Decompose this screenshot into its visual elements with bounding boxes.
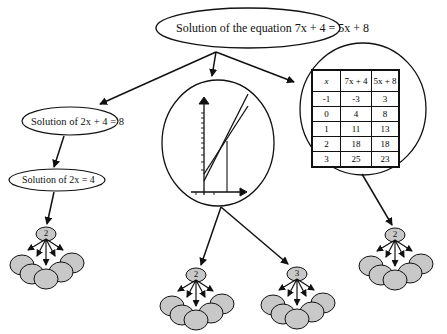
table-cell: 18 <box>341 137 372 152</box>
edge-table-cluster <box>362 174 392 225</box>
edge-root-graph <box>212 52 216 76</box>
table-row: 3 25 23 <box>312 152 399 168</box>
edge-root-table <box>216 52 294 82</box>
table-header: 5x + 8 <box>372 70 400 92</box>
table-cell: 8 <box>372 107 400 122</box>
table-cell: 13 <box>372 122 400 137</box>
table-cell: 4 <box>341 107 372 122</box>
table-cell: -1 <box>312 92 341 107</box>
table-cell: 25 <box>341 152 372 168</box>
table-header: x <box>312 70 341 92</box>
edge-step1-step2 <box>54 136 64 167</box>
cluster-badge-algebraic: 2 <box>36 228 56 238</box>
cluster-badge-graph-right: 3 <box>287 268 307 278</box>
table-row: 0 4 8 <box>312 107 399 122</box>
table-cell: 3 <box>312 152 341 168</box>
table-row: -1 -3 3 <box>312 92 399 107</box>
values-table: x 7x + 4 5x + 8 -1 -3 3 0 4 8 1 11 13 2 … <box>311 69 400 168</box>
edge-step2-cluster <box>47 192 54 224</box>
table-cell: 0 <box>312 107 341 122</box>
step2-label: Solution of 2x = 4 <box>22 174 95 185</box>
table-cell: -3 <box>341 92 372 107</box>
graph-node <box>162 80 274 206</box>
table-cell: 11 <box>341 122 372 137</box>
table-cell: 23 <box>372 152 400 168</box>
table-row: 2 18 18 <box>312 137 399 152</box>
table-cell: 3 <box>372 92 400 107</box>
cluster-badge-table: 2 <box>385 229 405 239</box>
table-cell: 1 <box>312 122 341 137</box>
edge-graph-cluster-2 <box>201 207 221 265</box>
step1-label: Solution of 2x + 4 = 8 <box>31 116 124 127</box>
table-cell: 18 <box>372 137 400 152</box>
cluster-badge-graph-left: 2 <box>186 269 206 279</box>
table-header: 7x + 4 <box>341 70 372 92</box>
root-label: Solution of the equation 7x + 4 = 5x + 8 <box>176 21 369 36</box>
edge-graph-cluster-3 <box>221 207 288 264</box>
table-cell: 2 <box>312 137 341 152</box>
table-row: 1 11 13 <box>312 122 399 137</box>
